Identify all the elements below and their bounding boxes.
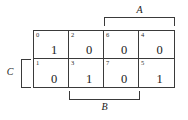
bracket-b [69, 91, 140, 100]
bracket-c [21, 59, 31, 88]
bracket-label-a: A [104, 4, 175, 15]
kmap-cell-value-4: 0 [139, 44, 174, 57]
kmap-cell-value-3: 1 [69, 73, 103, 86]
bracket-label-c: C [2, 66, 18, 77]
kmap-cell-value-7: 0 [104, 73, 138, 86]
kmap-cell-0: 0 1 [34, 31, 69, 59]
kmap-cell-index-0: 0 [36, 31, 39, 39]
kmap-cell-value-0: 1 [34, 44, 68, 57]
kmap-cell-3: 3 1 [69, 59, 104, 87]
kmap-cell-2: 2 0 [69, 31, 104, 59]
kmap-cell-value-1: 0 [34, 73, 68, 86]
kmap-cell-6: 6 0 [104, 31, 139, 59]
kmap-cell-index-7: 7 [106, 59, 109, 67]
kmap-grid: 0 1 2 0 6 0 4 0 1 0 3 1 7 0 5 1 [33, 30, 175, 88]
kmap-cell-index-3: 3 [71, 59, 74, 67]
kmap-cell-index-6: 6 [106, 31, 109, 39]
kmap-cell-index-2: 2 [71, 31, 74, 39]
bracket-a [104, 17, 175, 26]
kmap-cell-index-4: 4 [141, 31, 144, 39]
karnaugh-map-diagram: A C 0 1 2 0 6 0 4 0 1 0 3 1 7 [0, 0, 188, 120]
kmap-cell-4: 4 0 [139, 31, 174, 59]
kmap-cell-index-5: 5 [141, 59, 144, 67]
bracket-label-b: B [69, 101, 140, 112]
kmap-cell-value-2: 0 [69, 44, 103, 57]
kmap-cell-value-5: 1 [139, 73, 174, 86]
kmap-cell-index-1: 1 [36, 59, 39, 67]
kmap-cell-5: 5 1 [139, 59, 174, 87]
kmap-cell-value-6: 0 [104, 44, 138, 57]
kmap-cell-7: 7 0 [104, 59, 139, 87]
kmap-cell-1: 1 0 [34, 59, 69, 87]
